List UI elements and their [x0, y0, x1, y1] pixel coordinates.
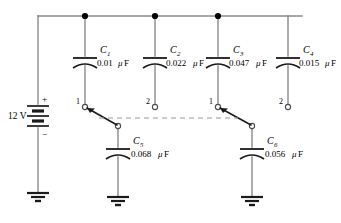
capacitor-c1-subscript: 1 — [107, 50, 110, 57]
ground-symbol-c6 — [241, 197, 263, 205]
battery-symbol — [27, 106, 49, 126]
switch1-terminal1-contact[interactable] — [82, 104, 87, 109]
capacitor-c4-name: C — [303, 44, 310, 55]
capacitor-c2-name: C — [170, 44, 177, 55]
capacitor-c5-value: 0.068 — [131, 149, 152, 159]
capacitor-c1-unit-mu: μ — [117, 58, 123, 68]
capacitor-c2-value: 0.022 — [166, 58, 186, 68]
switch2-terminal2-contact[interactable] — [285, 104, 290, 109]
capacitor-c5-unit-mu: μ — [157, 149, 163, 159]
battery-minus-label: − — [42, 129, 47, 139]
capacitor-c4-value: 0.015 — [299, 58, 320, 68]
ground-symbol-c5 — [107, 197, 129, 205]
junction-dot-c1 — [82, 13, 88, 19]
switch2-terminal2-label: 2 — [279, 97, 283, 106]
switch2-terminal1-label: 1 — [209, 97, 213, 106]
capacitor-c2-unit-mu: μ — [192, 58, 198, 68]
switch1-terminal2-label: 2 — [146, 97, 150, 106]
junction-dot-c2 — [152, 13, 158, 19]
capacitor-c4-unit-mu: μ — [324, 58, 330, 68]
junction-dot-c3 — [215, 13, 221, 19]
capacitor-c1-value: 0.01 — [97, 58, 113, 68]
capacitor-c5-unit: F — [164, 149, 169, 159]
capacitor-c3-subscript: 3 — [239, 50, 244, 57]
switch1-terminal1-label: 1 — [76, 97, 80, 106]
capacitor-c6-name: C — [267, 135, 274, 146]
capacitor-c2-unit: F — [199, 58, 204, 68]
capacitor-c1-unit: F — [124, 58, 129, 68]
circuit-schematic: 12 V + − C 1 0.01 μ F C 2 0.022 μ F C 3 … — [0, 0, 341, 223]
capacitor-c6-value: 0.056 — [265, 149, 286, 159]
capacitor-c4-subscript: 4 — [310, 50, 314, 57]
capacitor-c5-subscript: 5 — [140, 141, 144, 148]
circuit-diagram-page: 12 V + − C 1 0.01 μ F C 2 0.022 μ F C 3 … — [0, 0, 341, 223]
capacitor-c3-unit-mu: μ — [255, 58, 261, 68]
switch2-terminal1-contact[interactable] — [215, 104, 220, 109]
battery-plus-label: + — [42, 94, 47, 104]
capacitor-c6-unit: F — [298, 149, 303, 159]
capacitor-c3-unit: F — [262, 58, 267, 68]
capacitor-c4-unit: F — [331, 58, 336, 68]
ground-symbol-source — [27, 193, 49, 201]
battery-voltage-label: 12 V — [8, 111, 27, 121]
capacitor-c6-unit-mu: μ — [291, 149, 297, 159]
capacitor-c2-subscript: 2 — [177, 50, 181, 57]
capacitor-c5-name: C — [133, 135, 140, 146]
switch1-terminal2-contact[interactable] — [152, 104, 157, 109]
capacitor-c6-subscript: 6 — [274, 141, 278, 148]
capacitor-c3-value: 0.047 — [229, 58, 250, 68]
capacitor-c1-name: C — [100, 44, 107, 55]
capacitor-c3-name: C — [233, 44, 240, 55]
